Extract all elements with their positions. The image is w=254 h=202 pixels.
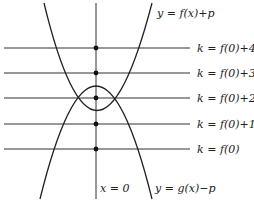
- curve-lower-label: y = g(x)−p: [155, 183, 216, 195]
- curve-upper: [44, 3, 152, 111]
- line-k3-label: k = f(0)+3: [197, 68, 254, 80]
- dot: [94, 122, 99, 127]
- curve-upper-label: y = f(x)+p: [157, 8, 215, 20]
- dot: [94, 71, 99, 76]
- dot: [94, 46, 99, 51]
- axis-x0-label: x = 0: [100, 183, 129, 195]
- dot: [94, 147, 99, 152]
- line-k1-label: k = f(0)+1: [197, 119, 254, 131]
- line-k0-label: k = f(0): [197, 144, 240, 156]
- line-k4-label: k = f(0)+4: [197, 43, 254, 55]
- dot: [94, 96, 99, 101]
- line-k2-label: k = f(0)+2: [197, 93, 254, 105]
